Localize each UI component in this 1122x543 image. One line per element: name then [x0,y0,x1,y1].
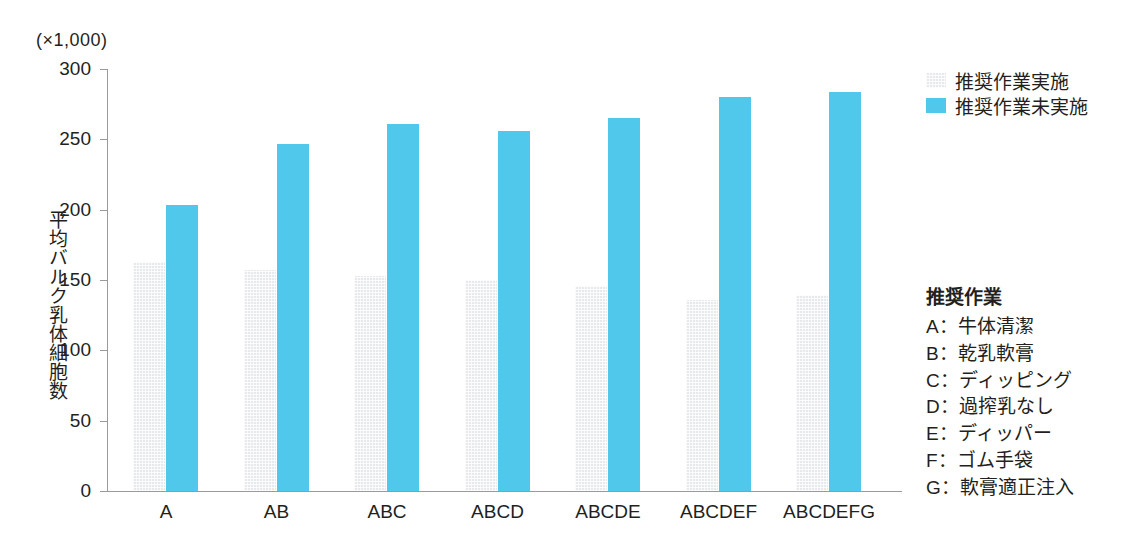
bar-implemented-AB [244,270,276,491]
legend-item-not-implemented: 推奨作業未実施 [926,93,1088,118]
y-tick-50: 50 [100,421,107,422]
bar-not-implemented-AB [277,144,309,491]
y-tick-label-50: 50 [70,410,91,432]
keylist-item-5: F：ゴム手袋 [926,448,1074,475]
y-axis-line [107,69,108,491]
x-axis-line [107,491,902,492]
y-tick-200: 200 [100,210,107,211]
bar-implemented-ABCDE [575,286,607,491]
y-tick-label-200: 200 [59,199,91,221]
y-tick-250: 250 [100,139,107,140]
bar-group-ABCDE: ABCDE [575,69,640,491]
x-tick-label-ABCDEFG: ABCDEFG [769,501,889,523]
y-axis-unit-label: (×1,000) [36,30,108,51]
x-tick-label-AB: AB [217,501,337,523]
bar-not-implemented-ABCDEF [719,97,751,491]
bar-group-A: A [133,69,198,491]
recommended-practices-key: 推奨作業 A：牛体清潔B：乾乳軟膏C：ディッピングD：過搾乳なしE：ディッパーF… [926,282,1074,501]
bar-not-implemented-A [166,205,198,491]
bar-implemented-ABCDEFG [796,295,828,491]
x-tick-label-ABCDE: ABCDE [548,501,668,523]
y-tick-label-0: 0 [80,480,91,502]
y-tick-label-150: 150 [59,269,91,291]
bar-not-implemented-ABC [387,124,419,491]
y-tick-150: 150 [100,280,107,281]
bar-group-ABCD: ABCD [465,69,530,491]
legend-label-not-implemented: 推奨作業未実施 [955,92,1088,119]
y-tick-label-300: 300 [59,58,91,80]
y-tick-label-100: 100 [59,339,91,361]
bar-group-AB: AB [244,69,309,491]
bar-not-implemented-ABCDE [608,118,640,491]
chart-container: (×1,000) 平均バルク乳体細胞数 050100150200250300 A… [0,0,1122,543]
keylist-item-3: D：過搾乳なし [926,394,1074,421]
bar-group-ABCDEFG: ABCDEFG [796,69,861,491]
keylist-item-6: G：軟膏適正注入 [926,475,1074,502]
y-tick-0: 0 [100,491,107,492]
keylist-item-4: E：ディッパー [926,421,1074,448]
bar-implemented-A [133,262,165,491]
keylist-item-2: C：ディッピング [926,368,1074,395]
legend-swatch-cyan-icon [926,98,946,113]
bar-group-ABC: ABC [354,69,419,491]
bar-not-implemented-ABCD [498,131,530,491]
legend-label-implemented: 推奨作業実施 [955,67,1069,94]
bar-implemented-ABCD [465,280,497,491]
x-tick-label-ABC: ABC [327,501,447,523]
x-tick-label-ABCD: ABCD [438,501,558,523]
keylist-items: A：牛体清潔B：乾乳軟膏C：ディッピングD：過搾乳なしE：ディッパーF：ゴム手袋… [926,314,1074,501]
bar-not-implemented-ABCDEFG [829,92,861,491]
legend-swatch-gray-icon [926,73,946,88]
y-tick-300: 300 [100,69,107,70]
bar-implemented-ABCDEF [686,300,718,491]
bar-implemented-ABC [354,276,386,491]
legend-item-implemented: 推奨作業実施 [926,68,1088,93]
keylist-item-0: A：牛体清潔 [926,314,1074,341]
series-legend: 推奨作業実施 推奨作業未実施 [926,68,1088,118]
bar-group-ABCDEF: ABCDEF [686,69,751,491]
y-tick-label-250: 250 [59,128,91,150]
keylist-title: 推奨作業 [926,282,1074,309]
x-tick-label-ABCDEF: ABCDEF [659,501,779,523]
x-tick-label-A: A [106,501,226,523]
y-tick-100: 100 [100,350,107,351]
keylist-item-1: B：乾乳軟膏 [926,341,1074,368]
plot-area: 050100150200250300 AABABCABCDABCDEABCDEF… [107,69,902,491]
